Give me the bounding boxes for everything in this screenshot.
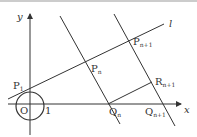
diagram: y x l O 1 P1 Pn Pn+1 Qn Qn+1 Rn+1 bbox=[0, 0, 197, 137]
origin-label: O bbox=[20, 106, 28, 116]
point-Qn-label: Qn bbox=[109, 107, 121, 118]
point-Rn1-label: Rn+1 bbox=[155, 77, 175, 88]
point-Qn1-label: Qn+1 bbox=[145, 107, 166, 118]
y-axis-label: y bbox=[17, 12, 23, 22]
point-Pn-label: Pn bbox=[91, 64, 102, 75]
x-axis-label: x bbox=[184, 105, 190, 115]
point-Pn1-label: Pn+1 bbox=[133, 37, 152, 48]
point-P1-label: P1 bbox=[13, 81, 24, 92]
line-l-label: l bbox=[169, 19, 172, 29]
unit-label: 1 bbox=[45, 106, 51, 116]
segment-Qn-Rn1 bbox=[108, 82, 152, 104]
